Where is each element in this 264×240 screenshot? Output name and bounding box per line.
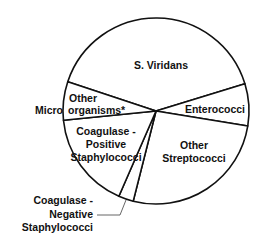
label-coag-negative-3: Staphylococci	[22, 221, 93, 233]
label-other-micro-2: Micro	[35, 104, 63, 116]
label-other-streptococci-1: Other	[180, 139, 208, 151]
label-coag-positive-3: Staphylococci	[70, 151, 141, 163]
label-other-micro-3: organisms*	[68, 104, 126, 116]
label-coag-positive-2: Positive	[86, 138, 126, 150]
leader-line	[97, 200, 126, 215]
pie-chart: S. Viridans Enterococci Other Streptococ…	[0, 0, 264, 240]
label-other-streptococci-2: Streptococci	[162, 152, 226, 164]
label-other-micro-1: Other	[69, 92, 97, 104]
label-enterococci: Enterococci	[185, 103, 245, 115]
label-s-viridans: S. Viridans	[134, 59, 188, 71]
label-coag-positive-1: Coagulase -	[76, 125, 136, 137]
label-coag-negative-1: Coagulase -	[33, 194, 93, 206]
label-coag-negative-2: Negative	[49, 208, 93, 220]
